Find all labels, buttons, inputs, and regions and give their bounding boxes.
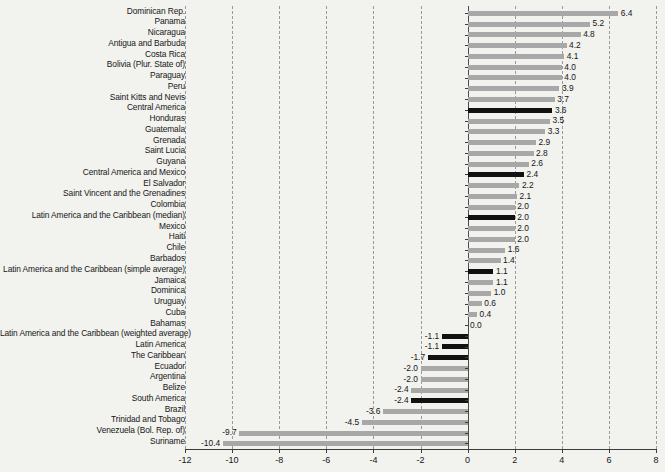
x-axis-tick [373, 449, 374, 453]
bar [468, 22, 590, 27]
category-label: Saint Vincent and the Grenadines [0, 189, 185, 198]
x-axis-tick-label: -12 [178, 455, 191, 465]
row-tick [465, 400, 468, 401]
value-label: 2.4 [527, 170, 539, 179]
value-label: 0.0 [470, 321, 482, 330]
row-tick [465, 35, 468, 36]
category-label: Jamaica [0, 276, 185, 285]
value-label: -2.4 [394, 385, 408, 394]
bar [468, 75, 562, 80]
value-label: 3.7 [557, 95, 569, 104]
category-label: Barbados [0, 254, 185, 263]
category-label: Saint Kitts and Nevis [0, 93, 185, 102]
row-tick [465, 411, 468, 412]
category-label: Trinidad and Tobago [0, 415, 185, 424]
x-axis-tick-label: 4 [559, 455, 564, 465]
value-label: -1.1 [425, 342, 439, 351]
category-label: Bolivia (Plur. State of) [0, 60, 185, 69]
category-label: Dominican Rep. [0, 7, 185, 16]
category-label: Haiti [0, 232, 185, 241]
value-label: 4.0 [564, 73, 576, 82]
value-label: 2.9 [538, 138, 550, 147]
gridline-4 [562, 6, 563, 449]
x-axis-tick [421, 449, 422, 453]
category-label: Nicaragua [0, 28, 185, 37]
bar [468, 11, 619, 16]
row-tick [465, 304, 468, 305]
value-label: 2.0 [517, 224, 529, 233]
bar [468, 258, 501, 263]
category-label: Bahamas [0, 319, 185, 328]
row-tick [465, 196, 468, 197]
x-axis-tick-label: -10 [226, 455, 239, 465]
bar [468, 280, 494, 285]
row-tick [465, 121, 468, 122]
bar [468, 97, 555, 102]
row-tick [465, 260, 468, 261]
bar [468, 119, 550, 124]
gridline--12 [185, 6, 186, 449]
x-axis-tick-label: -4 [369, 455, 377, 465]
row-tick [465, 314, 468, 315]
row-tick [465, 185, 468, 186]
value-label: 2.0 [517, 235, 529, 244]
row-tick [465, 45, 468, 46]
category-label: Mexico [0, 222, 185, 231]
gridline-2 [515, 6, 516, 449]
value-label: 5.2 [593, 19, 605, 28]
row-tick [465, 207, 468, 208]
value-label: 0.6 [484, 299, 496, 308]
bar [468, 215, 515, 220]
row-tick [465, 110, 468, 111]
row-tick [465, 78, 468, 79]
row-tick [465, 67, 468, 68]
category-label: Panama [0, 17, 185, 26]
value-label: -9.7 [222, 428, 236, 437]
value-label: -2.0 [404, 364, 418, 373]
category-label: Guatemala [0, 125, 185, 134]
row-tick [465, 217, 468, 218]
category-label: Dominica [0, 286, 185, 295]
category-label: Brazil [0, 405, 185, 414]
value-label: 1.1 [496, 267, 508, 276]
gridline--2 [421, 6, 422, 449]
row-tick [465, 239, 468, 240]
value-label: 2.0 [517, 202, 529, 211]
category-label: Central America [0, 103, 185, 112]
row-tick [465, 325, 468, 326]
bar [468, 237, 515, 242]
row-tick [465, 433, 468, 434]
row-tick [465, 347, 468, 348]
value-label: 1.6 [508, 245, 520, 254]
gridline--6 [326, 6, 327, 449]
row-tick [465, 88, 468, 89]
value-label: -10.4 [201, 439, 220, 448]
x-axis-tick [232, 449, 233, 453]
category-label-column: Dominican Rep.PanamaNicaraguaAntigua and… [0, 0, 185, 449]
value-label: -1.7 [411, 353, 425, 362]
row-tick [465, 142, 468, 143]
category-label: Colombia [0, 200, 185, 209]
category-label: Latin America and the Caribbean (weighte… [0, 329, 185, 338]
row-tick [465, 164, 468, 165]
value-label: 4.8 [583, 30, 595, 39]
value-label: 0.4 [480, 310, 492, 319]
category-label: El Salvador [0, 179, 185, 188]
category-label: Latin America and the Caribbean (simple … [0, 265, 185, 274]
value-label: 4.2 [569, 41, 581, 50]
category-label: Grenada [0, 136, 185, 145]
bar [468, 140, 536, 145]
category-label: Ecuador [0, 362, 185, 371]
gridline--4 [373, 6, 374, 449]
bar [428, 355, 468, 360]
value-label: 3.6 [555, 106, 567, 115]
bar [468, 86, 560, 91]
row-tick [465, 56, 468, 57]
category-label: Costa Rica [0, 50, 185, 59]
category-label: Chile [0, 243, 185, 252]
x-axis-tick [609, 449, 610, 453]
bar [468, 291, 492, 296]
category-label: Latin America and the Caribbean (median) [0, 211, 185, 220]
bar [421, 366, 468, 371]
row-tick [465, 174, 468, 175]
